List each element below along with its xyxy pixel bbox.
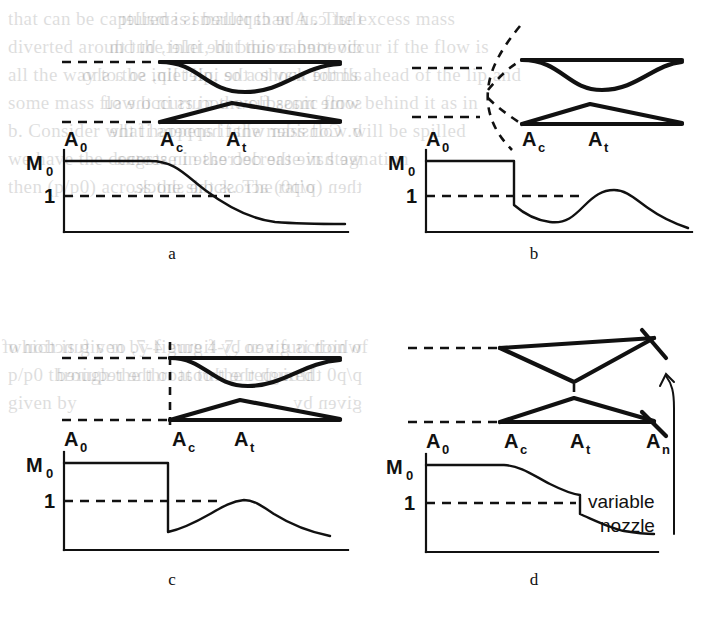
mach-plot-axes-b — [426, 150, 692, 232]
svg-text:c: c — [176, 140, 183, 155]
figure-four-panel-inlet-nozzle: A 0 A c A t M 0 1 — [0, 0, 723, 618]
svg-text:A: A — [504, 430, 518, 452]
svg-text:M: M — [26, 454, 43, 476]
svg-text:0: 0 — [46, 466, 53, 481]
svg-text:A: A — [64, 428, 78, 450]
station-label-a0-c: A 0 — [64, 428, 87, 455]
detached-bow-shock-b — [488, 26, 522, 150]
svg-text:0: 0 — [442, 140, 449, 155]
panel-a-svg: A 0 A c A t M 0 1 — [0, 0, 362, 280]
panel-letter-a: a — [152, 244, 192, 264]
svg-text:A: A — [160, 128, 174, 150]
station-label-at-b: A t — [588, 128, 609, 155]
y-axis-label-m0-d: M 0 — [386, 456, 413, 483]
y-axis-label-unity-a: 1 — [44, 185, 55, 207]
station-label-a0-d: A 0 — [426, 430, 449, 457]
svg-text:M: M — [386, 456, 403, 478]
upper-duct-wall-d — [500, 330, 666, 382]
lower-duct-wall-a — [160, 103, 340, 122]
station-label-at-d: A t — [570, 430, 591, 457]
station-label-ac-a: A c — [160, 128, 183, 155]
svg-text:A: A — [588, 128, 602, 150]
svg-text:A: A — [234, 428, 248, 450]
panel-a: A 0 A c A t M 0 1 — [0, 0, 362, 280]
station-label-ac-b: A c — [522, 128, 545, 155]
svg-text:0: 0 — [442, 442, 449, 457]
upper-duct-wall-c — [170, 358, 340, 386]
panel-letter-d: d — [514, 570, 554, 590]
upper-duct-wall-a — [160, 62, 340, 92]
panel-letter-c: c — [152, 570, 192, 590]
svg-text:0: 0 — [46, 164, 53, 179]
mach-curve-b — [426, 161, 688, 228]
svg-text:M: M — [26, 152, 43, 174]
panel-c-svg: A 0 A c A t M 0 1 — [0, 280, 362, 618]
svg-text:t: t — [242, 140, 247, 155]
svg-text:n: n — [662, 442, 670, 457]
panel-b-svg: A 0 A c A t M 0 1 — [362, 0, 723, 280]
y-axis-label-unity-c: 1 — [44, 490, 55, 512]
svg-text:M: M — [388, 152, 405, 174]
svg-text:c: c — [520, 442, 527, 457]
svg-text:A: A — [426, 128, 440, 150]
svg-text:0: 0 — [80, 440, 87, 455]
station-label-a0-b: A 0 — [426, 128, 449, 155]
mach-plot-axes-c — [64, 452, 348, 550]
svg-text:0: 0 — [406, 468, 413, 483]
panel-d: A 0 A c A t A n M 0 — [362, 280, 723, 618]
station-label-a0-a: A 0 — [64, 128, 87, 155]
svg-text:c: c — [188, 440, 195, 455]
y-axis-label-unity-b: 1 — [406, 185, 417, 207]
svg-text:A: A — [172, 428, 186, 450]
variable-nozzle-label-line1: variable — [588, 491, 655, 512]
panel-letter-b: b — [514, 244, 554, 264]
svg-text:A: A — [646, 430, 660, 452]
variable-nozzle-label-line2: nozzle — [600, 515, 655, 536]
svg-text:A: A — [64, 128, 78, 150]
y-axis-label-unity-d: 1 — [404, 492, 415, 514]
lower-duct-wall-b — [522, 104, 682, 124]
mach-curve-c — [64, 463, 330, 536]
panel-b: A 0 A c A t M 0 1 b — [362, 0, 723, 280]
svg-text:c: c — [538, 140, 545, 155]
svg-text:A: A — [522, 128, 536, 150]
y-axis-label-m0-c: M 0 — [26, 454, 53, 481]
svg-text:t: t — [250, 440, 255, 455]
station-label-ac-d: A c — [504, 430, 527, 457]
station-label-ac-c: A c — [172, 428, 195, 455]
panel-d-svg: A 0 A c A t A n M 0 — [362, 280, 723, 618]
svg-text:A: A — [426, 430, 440, 452]
upper-duct-wall-b — [522, 60, 682, 90]
svg-text:t: t — [604, 140, 609, 155]
svg-text:A: A — [570, 430, 584, 452]
y-axis-label-m0-b: M 0 — [388, 152, 415, 179]
svg-text:A: A — [226, 128, 240, 150]
mach-curve-a — [64, 161, 345, 224]
svg-text:0: 0 — [408, 164, 415, 179]
station-label-at-a: A t — [226, 128, 247, 155]
lower-duct-wall-c — [170, 400, 340, 420]
svg-text:0: 0 — [80, 140, 87, 155]
station-label-at-c: A t — [234, 428, 255, 455]
y-axis-label-m0-a: M 0 — [26, 152, 53, 179]
svg-text:t: t — [586, 442, 591, 457]
panel-c: A 0 A c A t M 0 1 c — [0, 280, 362, 618]
